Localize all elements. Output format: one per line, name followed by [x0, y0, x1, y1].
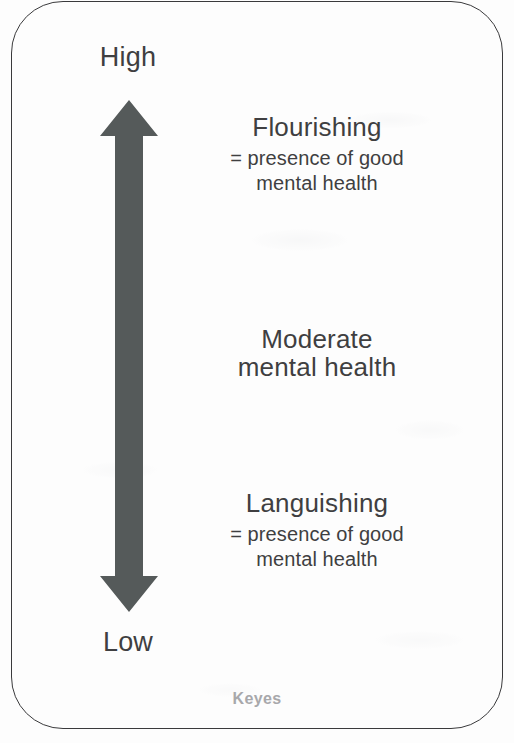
axis-label-low: Low — [48, 629, 208, 656]
double-headed-vertical-arrow-icon — [96, 96, 162, 616]
mental-health-continuum-diagram: High Low Flourishing = presence of good … — [0, 0, 514, 743]
state-title-flourishing: Flourishing — [186, 113, 448, 141]
state-subtitle-languishing-line2: mental health — [186, 547, 448, 572]
state-block-languishing: Languishing = presence of good mental he… — [186, 489, 448, 572]
state-title-moderate-line1: Moderate — [186, 325, 448, 353]
state-subtitle-languishing: = presence of good mental health — [186, 522, 448, 572]
attribution-label: Keyes — [107, 690, 407, 708]
state-title-moderate-line2: mental health — [186, 353, 448, 381]
axis-label-high: High — [48, 44, 208, 71]
state-block-moderate: Moderate mental health — [186, 325, 448, 381]
state-subtitle-flourishing-line1: = presence of good — [186, 146, 448, 171]
state-subtitle-languishing-line1: = presence of good — [186, 522, 448, 547]
state-subtitle-flourishing: = presence of good mental health — [186, 146, 448, 196]
state-block-flourishing: Flourishing = presence of good mental he… — [186, 113, 448, 196]
state-subtitle-flourishing-line2: mental health — [186, 171, 448, 196]
state-title-languishing: Languishing — [186, 489, 448, 517]
